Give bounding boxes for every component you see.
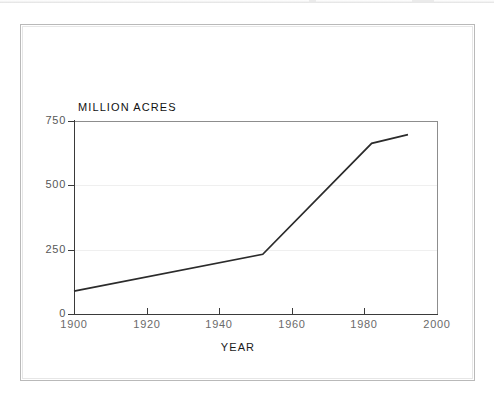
line-chart: 0250500750 190019201940196019802000 MILL… — [0, 0, 494, 401]
series-layer — [0, 0, 494, 401]
series-line-0 — [74, 135, 408, 291]
